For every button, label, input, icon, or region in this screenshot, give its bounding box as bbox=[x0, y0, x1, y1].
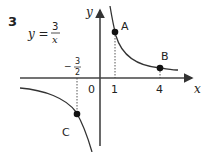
x-axis-label: x bbox=[194, 82, 201, 96]
point-b-label: B bbox=[161, 50, 169, 63]
point-c bbox=[74, 111, 81, 118]
x-tick-1: 1 bbox=[111, 83, 118, 96]
point-b bbox=[157, 65, 164, 72]
point-a bbox=[112, 29, 119, 36]
point-a-label: A bbox=[121, 20, 129, 33]
point-c-label: C bbox=[62, 126, 70, 139]
x-tick-neg-num: 3 bbox=[75, 57, 80, 66]
equation-denominator: x bbox=[52, 34, 58, 45]
equation-numerator: 3 bbox=[52, 21, 58, 32]
hyperbola-graph: 3 y = 3 x y x 0 1 4 − 3 2 A B C bbox=[0, 0, 208, 152]
y-axis-label: y bbox=[85, 5, 93, 19]
origin-label: 0 bbox=[88, 83, 95, 96]
x-tick-neg-sign: − bbox=[64, 61, 72, 71]
x-tick-neg-den: 2 bbox=[75, 68, 80, 77]
x-tick-4: 4 bbox=[156, 83, 163, 96]
curve-negative bbox=[20, 88, 92, 152]
question-number: 3 bbox=[8, 14, 17, 29]
equation-lhs: y = bbox=[27, 27, 49, 41]
